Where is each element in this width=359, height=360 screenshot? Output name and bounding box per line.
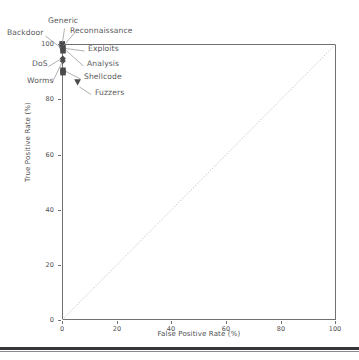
annotation-fuzzers: Fuzzers (95, 88, 124, 97)
xtick-mark-20 (117, 321, 118, 324)
xtick-mark-40 (171, 321, 172, 324)
annotation-worms: Worms (27, 76, 54, 85)
annotation-backdoor: Backdoor (7, 28, 43, 37)
xtick-mark-60 (226, 321, 227, 324)
annotation-generic: Generic (48, 16, 78, 25)
annotation-reconnaissance: Reconnaissance (70, 26, 132, 35)
ytick-mark-20 (58, 265, 61, 266)
ytick-mark-60 (58, 155, 61, 156)
ytick-label-20: 20 (38, 261, 54, 269)
x-axis-title: False Positive Rate (%) (62, 330, 336, 338)
ytick-label-100: 100 (38, 40, 54, 48)
ytick-label-80: 80 (38, 95, 54, 103)
xtick-mark-80 (281, 321, 282, 324)
ytick-label-0: 0 (38, 316, 54, 324)
page-bottom-text-artifact (0, 354, 359, 360)
annotation-shellcode: Shellcode (84, 72, 122, 81)
roc-scatter-figure: Generic Backdoor Reconnaissance Exploits… (0, 0, 359, 345)
ytick-label-60: 60 (38, 151, 54, 159)
plot-area-frame (62, 44, 336, 320)
ytick-mark-0 (58, 320, 61, 321)
y-axis-title: True Positive Rate (%) (24, 102, 32, 182)
annotation-dos: DoS (32, 59, 48, 68)
ytick-mark-100 (58, 44, 61, 45)
xtick-mark-100 (335, 321, 336, 324)
page-separator-rule-thin (0, 351, 359, 352)
page-separator-rule (0, 347, 359, 350)
leader-generic (63, 29, 65, 43)
ytick-mark-40 (58, 210, 61, 211)
leader-worms (52, 62, 63, 84)
annotation-analysis: Analysis (87, 59, 119, 68)
annotation-exploits: Exploits (88, 44, 119, 53)
xtick-mark-0 (62, 321, 63, 324)
ytick-mark-80 (58, 99, 61, 100)
leader-dos (49, 59, 62, 67)
ytick-label-40: 40 (38, 206, 54, 214)
